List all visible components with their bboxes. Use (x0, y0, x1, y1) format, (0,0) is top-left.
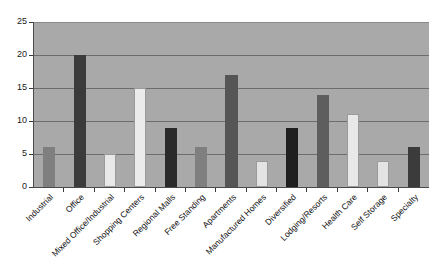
bar (195, 147, 207, 187)
bar (43, 147, 55, 187)
plot-area (33, 22, 429, 188)
y-axis-tick-label: 15 (3, 83, 27, 92)
bar (104, 154, 116, 187)
bar-series (34, 22, 429, 187)
bar (165, 128, 177, 187)
bar (317, 95, 329, 187)
x-axis-category-label: Regional Malls (0, 192, 177, 277)
bar (225, 75, 237, 187)
y-axis-tick-label: 10 (3, 116, 27, 125)
bar-chart-figure: 0510152025 IndustrialOfficeMixed Office/… (0, 0, 448, 277)
y-axis-tick-label: 5 (3, 149, 27, 158)
bar (377, 161, 389, 187)
bar (74, 55, 86, 187)
bar (256, 161, 268, 187)
x-axis-labels: IndustrialOfficeMixed Office/IndustrialS… (0, 189, 448, 277)
bar (286, 128, 298, 187)
bar (347, 114, 359, 187)
bar (408, 147, 420, 187)
bar (134, 88, 146, 187)
y-axis-tick-label: 20 (3, 50, 27, 59)
y-axis-tick-label: 25 (3, 17, 27, 26)
